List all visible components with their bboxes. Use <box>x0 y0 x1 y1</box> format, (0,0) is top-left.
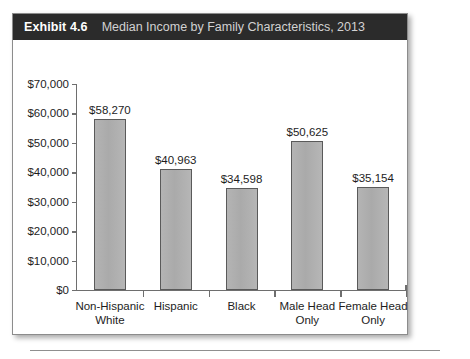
bar-value-label: $58,270 <box>89 104 131 116</box>
bar: $50,625 <box>291 141 323 290</box>
x-axis-category-label: Black <box>227 299 255 313</box>
y-axis-label: $50,000 <box>27 137 69 149</box>
exhibit-title-bar: Exhibit 4.6 Median Income by Family Char… <box>13 14 407 40</box>
x-axis-label-line: Hispanic <box>154 299 198 313</box>
y-axis-tick <box>72 231 77 232</box>
bar-value-label: $40,963 <box>155 154 197 166</box>
y-axis-tick <box>72 202 77 203</box>
y-axis-label: $30,000 <box>27 196 69 208</box>
y-axis-label: $40,000 <box>27 166 69 178</box>
x-axis-label-line: Only <box>279 313 335 327</box>
y-axis-tick <box>72 290 77 291</box>
exhibit-title: Median Income by Family Characteristics,… <box>102 20 365 34</box>
x-axis-label-line: Non-Hispanic <box>75 299 144 313</box>
bar-chart: $0$10,000$20,000$30,000$40,000$50,000$60… <box>13 40 407 336</box>
x-axis-category-label: Non-HispanicWhite <box>75 299 144 327</box>
x-axis-tick <box>340 291 341 297</box>
x-axis-category-label: Hispanic <box>154 299 198 313</box>
x-axis-tick <box>274 291 275 297</box>
x-axis-tick <box>143 291 144 297</box>
bar-value-label: $35,154 <box>352 172 394 184</box>
x-axis-label-line: Only <box>339 313 408 327</box>
y-axis-tick <box>72 172 77 173</box>
bar: $34,598 <box>226 188 258 290</box>
plot-area: $0$10,000$20,000$30,000$40,000$50,000$60… <box>76 84 406 291</box>
x-axis-label-line: Female Head <box>339 299 408 313</box>
exhibit-number: Exhibit 4.6 <box>24 20 88 34</box>
y-axis-tick <box>72 84 77 85</box>
x-axis-label-line: Black <box>227 299 255 313</box>
bar-value-label: $50,625 <box>287 126 329 138</box>
bar: $35,154 <box>357 187 389 290</box>
x-axis-tick <box>406 291 407 297</box>
x-axis-category-label: Male HeadOnly <box>279 299 335 327</box>
x-axis-tick <box>209 291 210 297</box>
footer-rule <box>30 350 440 351</box>
exhibit-panel: Exhibit 4.6 Median Income by Family Char… <box>12 13 408 335</box>
x-axis-category-label: Female HeadOnly <box>339 299 408 327</box>
x-axis-label-line: Male Head <box>279 299 335 313</box>
y-axis-label: $10,000 <box>27 255 69 267</box>
bar-value-label: $34,598 <box>221 173 263 185</box>
y-axis-label: $70,000 <box>27 78 69 90</box>
bar: $40,963 <box>160 169 192 290</box>
x-axis-label-line: White <box>75 313 144 327</box>
y-axis-tick <box>72 113 77 114</box>
y-axis-tick <box>72 261 77 262</box>
bar: $58,270 <box>94 119 126 290</box>
y-axis-label: $20,000 <box>27 225 69 237</box>
y-axis-tick <box>72 143 77 144</box>
y-axis-label: $0 <box>56 284 69 296</box>
y-axis-label: $60,000 <box>27 107 69 119</box>
